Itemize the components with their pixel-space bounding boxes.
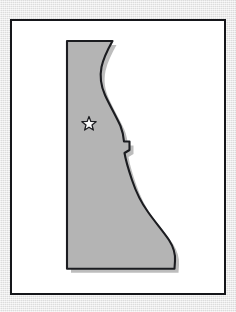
figure-root: Gray silhouette map of Delaware with a w… xyxy=(0,0,236,312)
map-canvas xyxy=(0,0,236,312)
state-shape-delaware xyxy=(67,41,175,269)
